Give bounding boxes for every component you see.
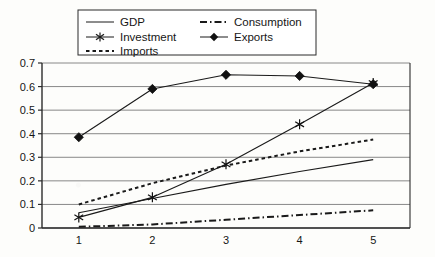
series-consumption <box>79 210 373 227</box>
data-point-diamond <box>148 84 157 93</box>
y-tick-label: 0.6 <box>20 81 35 93</box>
data-point-diamond <box>221 70 230 79</box>
x-tick-label: 2 <box>149 234 155 246</box>
chart-container: GDP Consumption Investment <box>0 0 435 257</box>
x-axis-tick-labels: 12345 <box>76 234 377 246</box>
x-tick-label: 1 <box>76 234 82 246</box>
data-point-diamond <box>295 71 304 80</box>
x-tick-label: 5 <box>370 234 376 246</box>
series-line <box>79 75 373 137</box>
chart-axes <box>38 63 410 228</box>
y-axis-tick-labels: 00.10.20.30.40.50.60.7 <box>20 57 35 234</box>
x-tick-label: 3 <box>223 234 229 246</box>
chart-legend: GDP Consumption Investment <box>78 10 316 57</box>
gridlines <box>42 63 410 228</box>
legend-label-consumption: Consumption <box>234 16 302 28</box>
legend-item-investment: Investment <box>86 31 177 43</box>
legend-label-investment: Investment <box>120 31 177 43</box>
legend-label-imports: Imports <box>120 45 159 57</box>
data-point-star <box>222 159 231 169</box>
y-tick-label: 0.3 <box>20 151 35 163</box>
series-investment <box>74 78 377 222</box>
y-tick-label: 0.4 <box>20 128 35 140</box>
data-point-star <box>295 119 304 129</box>
series-line <box>79 210 373 227</box>
x-tick-label: 4 <box>297 234 303 246</box>
series-line <box>79 83 373 217</box>
legend-label-gdp: GDP <box>120 16 145 28</box>
data-point-star <box>148 192 157 202</box>
y-tick-label: 0.5 <box>20 104 35 116</box>
y-tick-label: 0.7 <box>20 57 35 69</box>
series-line <box>79 140 373 205</box>
data-series-layer <box>74 70 378 227</box>
y-tick-label: 0.2 <box>20 175 35 187</box>
legend-label-exports: Exports <box>234 31 273 43</box>
series-imports <box>79 140 373 205</box>
data-point-star <box>74 212 83 222</box>
y-tick-label: 0 <box>29 222 35 234</box>
line-chart: GDP Consumption Investment <box>0 0 435 257</box>
y-tick-label: 0.1 <box>20 198 35 210</box>
